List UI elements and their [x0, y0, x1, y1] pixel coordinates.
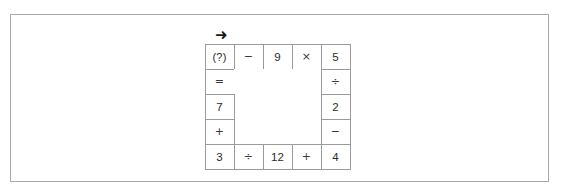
grid-cell-r3c4[interactable]: −	[321, 119, 351, 145]
grid-cell-r4c3[interactable]: +	[292, 144, 322, 170]
grid-center-hole	[234, 69, 321, 144]
rightward-arrow-icon: ➜	[215, 27, 235, 43]
grid-cell-r2c4[interactable]: 2	[321, 94, 351, 120]
grid-cell-r0c0[interactable]: (?)	[205, 44, 235, 70]
figure-canvas: ➜ (?) − 9 × 5 = ÷ 7 2 + − 3 ÷	[0, 0, 561, 196]
ring-equation-grid: (?) − 9 × 5 = ÷ 7 2 + − 3 ÷ 12 +	[205, 44, 350, 169]
grid-cell-r4c4[interactable]: 4	[321, 144, 351, 170]
grid-cell-r0c4[interactable]: 5	[321, 44, 351, 70]
grid-cell-r0c2[interactable]: 9	[263, 44, 293, 70]
grid-cell-r1c0[interactable]: =	[205, 69, 235, 95]
figure-frame: ➜ (?) − 9 × 5 = ÷ 7 2 + − 3 ÷	[10, 14, 549, 182]
grid-cell-r1c4[interactable]: ÷	[321, 69, 351, 95]
grid-cell-r4c1[interactable]: ÷	[234, 144, 264, 170]
grid-cell-r2c0[interactable]: 7	[205, 94, 235, 120]
grid-cell-r0c1[interactable]: −	[234, 44, 264, 70]
puzzle-block: ➜ (?) − 9 × 5 = ÷ 7 2 + − 3 ÷	[205, 27, 355, 169]
grid-cell-r4c2[interactable]: 12	[263, 144, 293, 170]
grid-cell-r3c0[interactable]: +	[205, 119, 235, 145]
grid-cell-r0c3[interactable]: ×	[292, 44, 322, 70]
grid-cell-r4c0[interactable]: 3	[205, 144, 235, 170]
